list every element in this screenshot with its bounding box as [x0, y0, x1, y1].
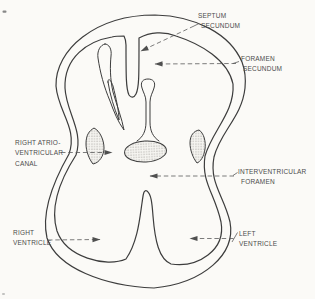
- label-right-ventricle: RIGHT VENTRICLE: [13, 228, 51, 249]
- label-line: VENTRICULAR: [15, 148, 63, 158]
- label-line: SECUNDUM: [243, 64, 282, 74]
- label-line: SECUNDUM: [201, 21, 240, 31]
- label-line: FORAMEN: [241, 54, 282, 64]
- label-line: SEPTUM: [198, 11, 240, 21]
- label-line: VENTRICLE: [239, 239, 277, 249]
- label-interventricular-foramen: INTERVENTRICULAR FORAMEN: [238, 167, 306, 188]
- septum-primum: [98, 44, 124, 130]
- right-endocardial-cushion: [190, 130, 205, 163]
- label-line: CANAL: [15, 159, 63, 169]
- label-left-ventricle: LEFT VENTRICLE: [239, 229, 277, 250]
- scan-speck-bottom: [2, 293, 5, 295]
- label-line: LEFT: [239, 229, 277, 239]
- foramen-secundum-leader: [155, 64, 236, 65]
- interventricular-foramen-leader-tick: [233, 173, 238, 176]
- label-septum-secundum: SEPTUM SECUNDUM: [198, 11, 240, 32]
- label-line: INTERVENTRICULAR: [238, 167, 306, 177]
- scan-speck-top: [3, 11, 7, 13]
- left-ventricle-leader-tick: [232, 233, 238, 243]
- heart-septation-diagram: SEPTUM SECUNDUM FORAMEN SECUNDUM RIGHT A…: [0, 0, 315, 299]
- right-ventricle-leader: [48, 240, 100, 241]
- label-line: VENTRICLE: [13, 238, 51, 248]
- septum-primum-free-edge: [137, 79, 159, 141]
- label-foramen-secundum: FORAMEN SECUNDUM: [241, 54, 282, 75]
- label-right-atrioventricular-canal: RIGHT ATRIO- VENTRICULAR CANAL: [15, 138, 63, 169]
- label-line: FORAMEN: [241, 177, 306, 187]
- left-endocardial-cushion: [86, 128, 104, 164]
- central-endocardial-cushion: [124, 140, 167, 163]
- septum-secundum-leader: [141, 26, 194, 51]
- label-line: RIGHT: [13, 228, 51, 238]
- label-line: RIGHT ATRIO-: [15, 138, 63, 148]
